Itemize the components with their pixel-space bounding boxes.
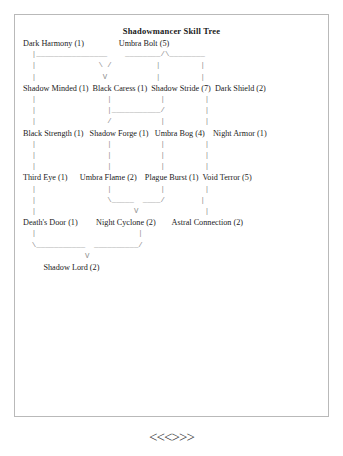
connector-row: | \ / | | [23,60,328,71]
skill-row[interactable]: Shadow Minded (1) Black Caress (1) Shado… [23,83,328,94]
skill-tree-page: Shadowmancer Skill Tree Dark Harmony (1)… [0,0,343,456]
next-page-button[interactable]: > [172,429,179,445]
pagination-inner: <<<>>> [149,428,194,446]
connector-row: |________________ ________/\________ [23,49,328,60]
first-page-button[interactable]: << [149,429,164,445]
connector-row: | | | | [23,94,328,105]
connector-row: | | | | [23,139,328,150]
connector-row: | \_____ ____/ | [23,195,328,206]
skill-row[interactable]: Dark Harmony (1) Umbra Bolt (5) [23,38,328,49]
connector-row: | V | [23,206,328,217]
pagination-controls: <<<>>> [0,428,343,446]
prev-page-button[interactable]: < [164,429,171,445]
skill-row[interactable]: Shadow Lord (2) [23,262,328,273]
skill-row[interactable]: Death's Door (1) Night Cyclone (2) Astra… [23,217,328,228]
connector-row: \___________ __________/ [23,240,328,251]
connector-row: V [23,251,328,262]
skill-row[interactable]: Third Eye (1) Umbra Flame (2) Plague Bur… [23,172,328,183]
connector-row: | | | | [23,150,328,161]
connector-row: | / | | [23,116,328,127]
page-title: Shadowmancer Skill Tree [15,26,328,36]
skill-tree-card: Shadowmancer Skill Tree Dark Harmony (1)… [14,14,329,417]
connector-row: | |___________/ | [23,105,328,116]
last-page-button[interactable]: >> [179,429,194,445]
connector-row: | | [23,228,328,239]
connector-row: | V | | [23,72,328,83]
connector-row: | | | | [23,184,328,195]
skill-row[interactable]: Black Strength (1) Shadow Forge (1) Umbr… [23,128,328,139]
connector-row: | | | | [23,161,328,172]
skill-tree-ascii: Dark Harmony (1) Umbra Bolt (5) |_______… [15,38,328,273]
